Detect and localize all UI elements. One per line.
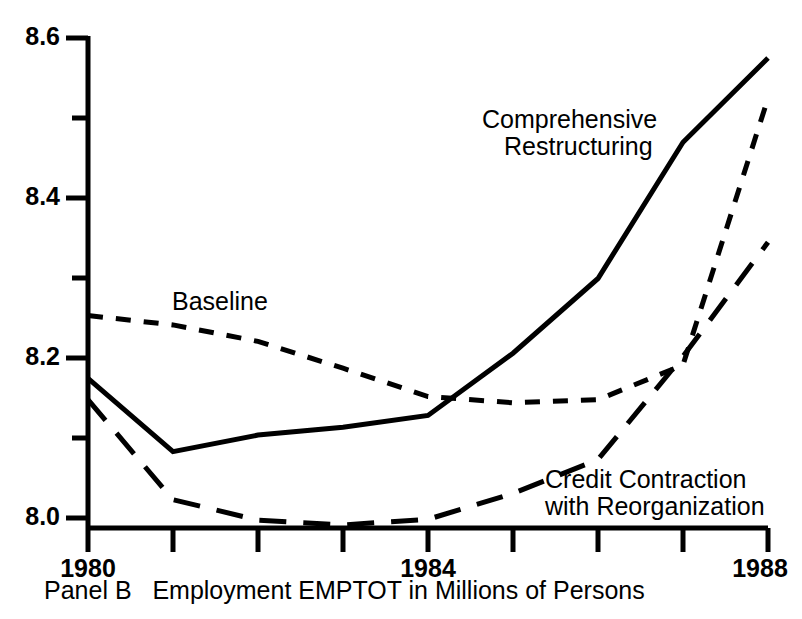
annotation-credit-line-1: Credit Contraction	[545, 466, 765, 493]
annotation-credit-contraction: Credit Contraction with Reorganization	[545, 466, 765, 520]
x-axis-ticks	[88, 528, 768, 552]
series-comprehensive-restructuring	[88, 58, 768, 452]
annotation-comprehensive-line-2: Restructuring	[504, 133, 657, 160]
figure-caption: Panel B Employment EMPTOT in Millions of…	[44, 578, 645, 603]
annotation-baseline: Baseline	[172, 288, 268, 315]
y-axis-ticks	[66, 38, 88, 518]
chart-plot-area	[0, 0, 802, 619]
y-tick-label-8-6: 8.6	[0, 24, 60, 49]
annotation-credit-line-2: with Reorganization	[545, 493, 765, 520]
series-baseline	[88, 98, 768, 403]
annotation-comprehensive-restructuring: Comprehensive Restructuring	[482, 106, 657, 160]
y-tick-label-8-0: 8.0	[0, 504, 60, 529]
y-tick-label-8-4: 8.4	[0, 184, 60, 209]
chart-figure: 8.6 8.4 8.2 8.0 1980 1984 1988 Comprehen…	[0, 0, 802, 619]
annotation-comprehensive-line-1: Comprehensive	[482, 106, 657, 133]
x-tick-label-1988: 1988	[710, 556, 802, 581]
y-tick-label-8-2: 8.2	[0, 344, 60, 369]
